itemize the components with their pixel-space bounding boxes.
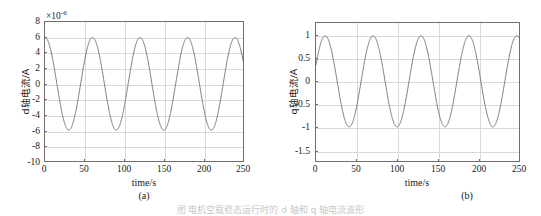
x-tick-mark: [44, 159, 45, 162]
x-tick-mark: [164, 159, 165, 162]
plot-area-a: [44, 21, 244, 162]
sublabel-b: (b): [417, 190, 517, 201]
x-tick-mark: [519, 159, 520, 162]
y-tick-mark: [44, 21, 47, 22]
y-tick-label: 1: [284, 30, 310, 40]
y-tick-mark: [44, 115, 47, 116]
y-tick-label: 8: [14, 16, 40, 26]
y-tick-mark: [315, 104, 318, 105]
x-tick-label: 250: [230, 164, 256, 174]
x-tick-label: 50: [73, 164, 95, 174]
y-tick-mark: [44, 84, 47, 85]
x-tick-mark: [438, 159, 439, 162]
y-tick-mark: [44, 52, 47, 53]
x-tick-label: 0: [33, 164, 55, 174]
waveform-curve-a: [45, 22, 243, 161]
x-axis-title-b: time/s: [367, 177, 467, 188]
x-tick-label: 100: [384, 164, 410, 174]
y-axis-exponent-a: ×10-6: [46, 8, 67, 21]
x-tick-label: 250: [506, 164, 532, 174]
x-tick-label: 100: [111, 164, 137, 174]
y-tick-mark: [44, 99, 47, 100]
x-tick-mark: [479, 159, 480, 162]
y-tick-label: -1.5: [284, 146, 310, 156]
sublabel-a: (a): [94, 190, 194, 201]
y-axis-title-b: q轴电流/A: [288, 42, 299, 142]
plot-area-b: [315, 22, 520, 162]
y-tick-mark: [44, 68, 47, 69]
x-axis-title-a: time/s: [94, 177, 194, 188]
x-tick-label: 0: [304, 164, 326, 174]
x-tick-label: 50: [345, 164, 367, 174]
x-tick-mark: [124, 159, 125, 162]
x-tick-label: 150: [151, 164, 177, 174]
figure-container: ×10-6: [0, 0, 541, 216]
y-tick-label: 6: [14, 32, 40, 42]
y-axis-title-a: d轴电流/A: [20, 42, 31, 142]
y-tick-mark: [315, 35, 318, 36]
x-tick-label: 200: [191, 164, 217, 174]
y-tick-mark: [315, 151, 318, 152]
waveform-curve-b: [316, 23, 519, 161]
y-tick-mark: [44, 37, 47, 38]
x-tick-mark: [204, 159, 205, 162]
y-tick-mark: [315, 81, 318, 82]
y-tick-mark: [44, 146, 47, 147]
x-tick-mark: [356, 159, 357, 162]
x-tick-label: 150: [425, 164, 451, 174]
y-tick-label: -8: [14, 141, 40, 151]
figure-caption: 图 电机空载稳态运行时的 d 轴和 q 轴电流波形: [0, 205, 541, 216]
y-tick-mark: [315, 127, 318, 128]
y-tick-mark: [315, 58, 318, 59]
x-tick-mark: [243, 159, 244, 162]
x-tick-mark: [397, 159, 398, 162]
x-tick-mark: [315, 159, 316, 162]
x-tick-label: 200: [466, 164, 492, 174]
y-tick-mark: [44, 131, 47, 132]
x-tick-mark: [84, 159, 85, 162]
